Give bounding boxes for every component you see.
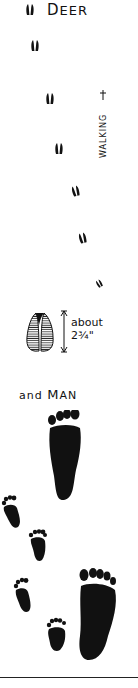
baby-footprint: [12, 577, 33, 613]
baby-footprint: [28, 529, 48, 562]
dimension-arrow: [60, 309, 68, 354]
title-man: and MAN: [19, 387, 77, 402]
deer-track-icon: [94, 279, 104, 288]
adult-footprint: [77, 566, 119, 662]
deer-hoof-icon: [26, 3, 34, 16]
deer-track-icon: [78, 232, 87, 244]
deer-track-icon: [55, 142, 63, 155]
bottom-divider: [0, 677, 138, 678]
deer-hoof-diagram: [25, 311, 55, 353]
hoof-size-label: about 2¾": [71, 316, 103, 342]
direction-arrow-icon: [100, 90, 106, 100]
deer-track-icon: [31, 39, 39, 52]
deer-track-icon: [71, 185, 80, 197]
walking-label: WALKING: [99, 114, 108, 158]
baby-footprint: [1, 495, 22, 529]
title-deer: DEER: [47, 1, 88, 19]
adult-footprint: [46, 410, 86, 502]
baby-footprint: [46, 617, 70, 653]
deer-track-icon: [46, 92, 54, 105]
